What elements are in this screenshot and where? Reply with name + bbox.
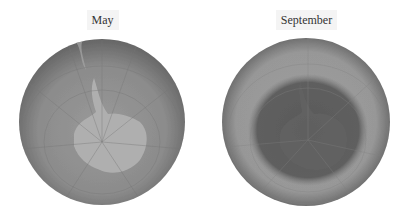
panel-may: May — [0, 0, 205, 216]
panel-september: September — [204, 0, 409, 216]
globe-september-image — [204, 0, 409, 216]
globe-may-image — [0, 0, 205, 216]
